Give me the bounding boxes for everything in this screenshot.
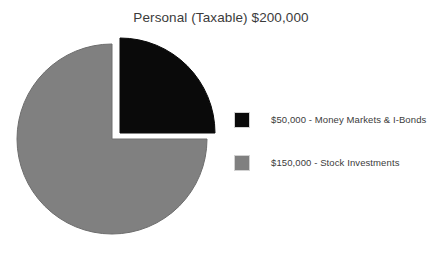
pie-svg bbox=[8, 28, 228, 248]
legend-swatch-icon-money-markets-ibonds bbox=[234, 112, 250, 128]
legend-label-stock-investments: $150,000 - Stock Investments bbox=[271, 157, 399, 168]
legend-label-money-markets-ibonds: $50,000 - Money Markets & I-Bonds bbox=[271, 114, 426, 125]
legend-item-stock-investments[interactable]: $150,000 - Stock Investments bbox=[234, 141, 442, 184]
legend-swatch-icon-stock-investments bbox=[234, 155, 250, 171]
pie-slice-money-markets-ibonds[interactable] bbox=[120, 38, 215, 133]
chart-legend: $50,000 - Money Markets & I-Bonds $150,0… bbox=[234, 98, 442, 184]
pie-plot-area bbox=[8, 28, 228, 248]
pie-chart-figure: Personal (Taxable) $200,000 $50,000 - Mo… bbox=[0, 0, 442, 259]
chart-title: Personal (Taxable) $200,000 bbox=[0, 10, 442, 25]
legend-item-money-markets-ibonds[interactable]: $50,000 - Money Markets & I-Bonds bbox=[234, 98, 442, 141]
